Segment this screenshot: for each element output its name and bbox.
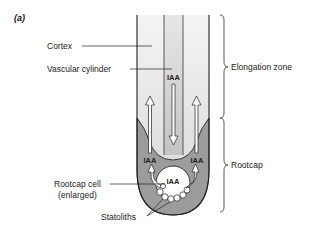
statoliths-label: Statoliths (101, 212, 136, 222)
brace-elongation-zone (220, 15, 228, 118)
iaa-right-label: IAA (191, 156, 205, 165)
iaa-cell-label: IAA (167, 177, 181, 186)
rootcap-label: Rootcap (231, 160, 263, 170)
brace-rootcap (220, 118, 228, 212)
cortex-label: Cortex (47, 41, 72, 51)
vascular-cylinder-label: Vascular cylinder (47, 64, 111, 74)
rootcap-cell-sublabel: (enlarged) (58, 190, 97, 200)
rootcap-cell-label: Rootcap cell (54, 179, 101, 189)
iaa-center-label: IAA (167, 73, 181, 82)
iaa-left-label: IAA (144, 156, 158, 165)
root-tip-diagram: IAA IAA IAA IAA (0, 0, 312, 236)
elongation-zone-label: Elongation zone (231, 62, 292, 72)
